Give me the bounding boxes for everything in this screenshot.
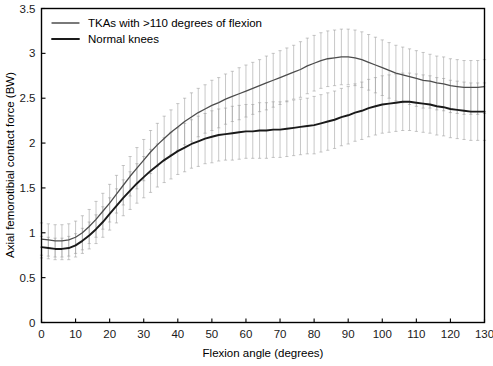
x-axis-title: Flexion angle (degrees) <box>203 347 324 359</box>
y-tick-label: 3 <box>29 47 35 59</box>
chart-figure: 0102030405060708090100110120130 00.511.5… <box>0 0 493 366</box>
y-axis-title: Axial femorotibial contact force (BW) <box>4 72 16 258</box>
x-tick-label: 50 <box>205 328 218 340</box>
x-tick-label: 70 <box>274 328 287 340</box>
y-tick-label: 0 <box>29 317 35 329</box>
x-tick-label: 100 <box>373 328 392 340</box>
x-tick-label: 120 <box>441 328 460 340</box>
x-tick-label: 30 <box>137 328 150 340</box>
x-tick-label: 60 <box>240 328 253 340</box>
x-tick-label: 130 <box>475 328 493 340</box>
chart-background <box>0 0 493 366</box>
x-tick-label: 90 <box>342 328 355 340</box>
y-tick-label: 1.5 <box>20 182 36 194</box>
x-tick-label: 0 <box>38 328 44 340</box>
x-tick-label: 40 <box>171 328 184 340</box>
x-tick-label: 10 <box>69 328 82 340</box>
legend-label-0: TKAs with >110 degrees of flexion <box>88 17 262 29</box>
y-tick-label: 0.5 <box>20 272 36 284</box>
y-tick-label: 3.5 <box>20 3 36 15</box>
y-tick-label: 2 <box>29 137 35 149</box>
x-tick-label: 20 <box>103 328 116 340</box>
legend-label-1: Normal knees <box>88 33 159 45</box>
y-tick-label: 1 <box>29 227 35 239</box>
line-chart: 0102030405060708090100110120130 00.511.5… <box>0 0 493 366</box>
y-tick-label: 2.5 <box>20 92 36 104</box>
x-tick-label: 80 <box>308 328 321 340</box>
x-tick-label: 110 <box>407 328 425 340</box>
